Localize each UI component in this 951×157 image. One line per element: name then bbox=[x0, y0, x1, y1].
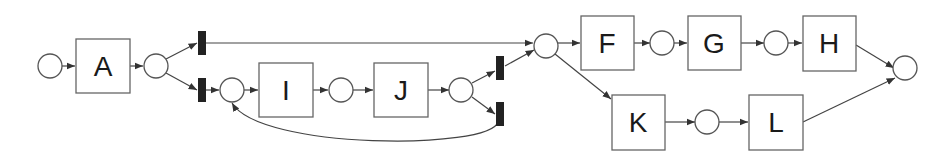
task-K: K bbox=[612, 95, 665, 150]
task-L: L bbox=[749, 95, 803, 150]
arc-place-to-tau-redo bbox=[472, 97, 495, 114]
task-J: J bbox=[374, 63, 428, 117]
place-I-J bbox=[329, 78, 353, 102]
task-G: G bbox=[688, 16, 741, 70]
place-loop-entry bbox=[220, 78, 244, 102]
task-label: H bbox=[819, 28, 839, 59]
place-G-H bbox=[764, 31, 788, 55]
place-end bbox=[893, 56, 917, 80]
task-A: A bbox=[76, 39, 130, 93]
silent-transition-skip bbox=[198, 31, 206, 55]
silent-transition-exit-loop bbox=[496, 56, 504, 80]
silent-transition-enter-loop bbox=[198, 78, 206, 102]
arc-L-to-end bbox=[803, 78, 895, 122]
task-label: J bbox=[394, 75, 408, 106]
task-label: L bbox=[768, 107, 784, 138]
petri-net-diagram: A I J F G H K L bbox=[0, 0, 951, 157]
silent-transition-redo bbox=[496, 102, 504, 126]
task-label: I bbox=[282, 75, 290, 106]
place-F-G bbox=[650, 31, 674, 55]
place-K-L bbox=[695, 110, 719, 134]
diagram-canvas: A I J F G H K L bbox=[0, 0, 951, 157]
task-label: F bbox=[598, 28, 615, 59]
task-F: F bbox=[581, 16, 634, 70]
place-after-J bbox=[449, 78, 473, 102]
task-label: A bbox=[94, 51, 113, 82]
place-merge bbox=[534, 34, 558, 58]
arc-place-to-tau-enter-loop bbox=[166, 73, 197, 90]
arc-tau-exit-to-merge bbox=[505, 50, 534, 66]
task-I: I bbox=[259, 63, 313, 117]
arc-place-to-tau-skip bbox=[166, 43, 197, 59]
arc-place-to-tau-exit bbox=[472, 71, 495, 83]
place-after-A bbox=[144, 54, 168, 78]
task-H: H bbox=[803, 16, 856, 71]
task-label: K bbox=[629, 107, 648, 138]
arc-H-to-end bbox=[856, 45, 894, 68]
place-start bbox=[38, 54, 62, 78]
task-label: G bbox=[703, 28, 725, 59]
